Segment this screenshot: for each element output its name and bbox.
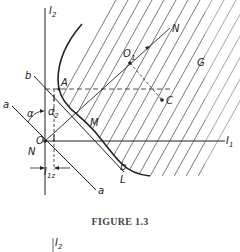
label-angle-alpha: α bbox=[27, 108, 34, 119]
angle-alpha-arrow bbox=[40, 109, 44, 113]
hatch-fade bbox=[205, 0, 240, 180]
figure-1-3-diagram: I2 I1 O N A M O1 N C G b b a a L α d2 I1… bbox=[0, 0, 240, 252]
line-o1-c-dashed bbox=[130, 63, 162, 100]
label-next-figure-axis: I2 bbox=[55, 237, 63, 251]
point-c bbox=[160, 98, 164, 102]
label-axis-i2: I2 bbox=[49, 5, 57, 19]
label-line-b-top: b bbox=[25, 70, 31, 81]
label-region-g: G bbox=[197, 57, 205, 68]
label-distance-d2: d2 bbox=[48, 106, 59, 120]
i1z-arrow-right bbox=[54, 166, 59, 170]
line-b bbox=[34, 76, 124, 172]
label-origin-n: N bbox=[28, 146, 36, 157]
boundary-curve-l bbox=[58, 24, 150, 176]
figure-caption: FIGURE 1.3 bbox=[0, 216, 240, 227]
label-point-m: M bbox=[90, 117, 99, 128]
label-point-a: A bbox=[60, 77, 68, 88]
label-curve-l: L bbox=[120, 174, 126, 185]
label-point-n: N bbox=[172, 23, 180, 34]
label-line-b-bottom: b bbox=[120, 161, 126, 172]
label-line-a-bottom: a bbox=[98, 185, 104, 196]
label-point-o1: O1 bbox=[123, 48, 135, 62]
label-distance-i1z: I1z bbox=[44, 166, 55, 180]
label-origin-o: O bbox=[36, 135, 44, 146]
label-line-a-top: a bbox=[3, 99, 9, 110]
label-point-c: C bbox=[166, 95, 173, 106]
